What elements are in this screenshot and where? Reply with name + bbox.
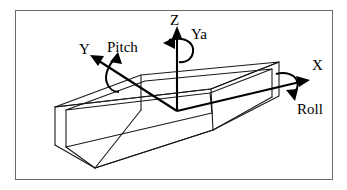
yaw-rotation-group: Ya <box>163 26 207 62</box>
pitch-label: Pitch <box>107 39 138 55</box>
body-inner-rim <box>66 69 272 110</box>
x-axis-line <box>177 82 300 111</box>
roll-arrowhead <box>286 89 298 101</box>
axes-diagram: Z Ya Y Pitch X Roll <box>0 0 347 190</box>
body-top-face <box>55 62 279 107</box>
vehicle-body <box>55 62 279 168</box>
body-edge-right-bottom-inner <box>213 97 272 130</box>
z-axis-label: Z <box>170 12 179 28</box>
body-edge-front-lower <box>66 113 212 147</box>
figure-canvas: Z Ya Y Pitch X Roll <box>0 0 347 190</box>
y-axis-arrowhead <box>90 55 104 66</box>
body-bottom-left <box>55 130 213 168</box>
yaw-label: Ya <box>191 26 207 42</box>
yaw-arrowhead <box>163 37 175 49</box>
body-bottom-inner-left <box>66 147 95 168</box>
y-axis-label: Y <box>79 41 90 57</box>
x-axis-label: X <box>312 57 323 73</box>
roll-label: Roll <box>297 101 323 117</box>
